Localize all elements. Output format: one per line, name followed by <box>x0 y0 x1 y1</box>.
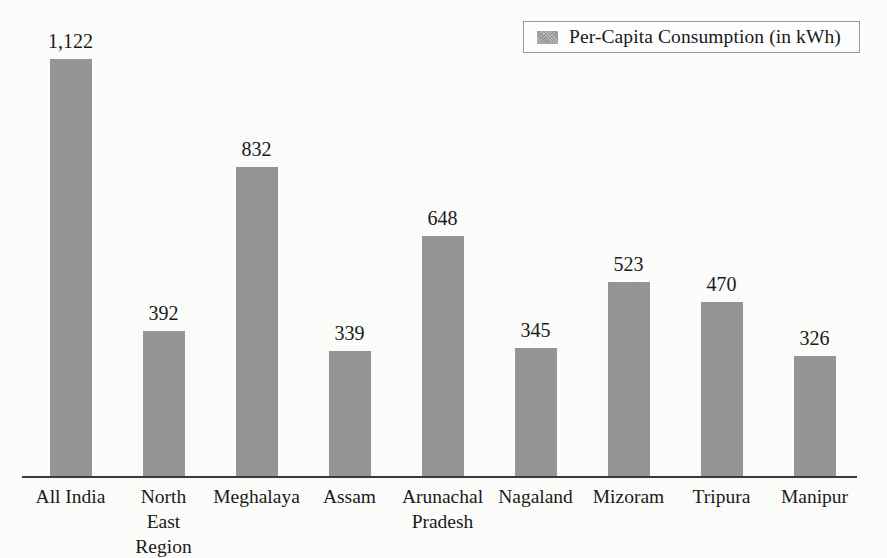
x-axis-category-label: Nagaland <box>489 484 582 509</box>
plot-area: 1,122All India392NorthEast Region832Megh… <box>0 0 887 558</box>
bar-group: 832Meghalaya <box>210 0 303 558</box>
bar-chart-figure: Per-Capita Consumption (in kWh) 1,122All… <box>0 0 887 558</box>
bar-value-label: 339 <box>303 323 396 343</box>
x-axis-line <box>22 476 857 478</box>
bar-group: 523Mizoram <box>582 0 675 558</box>
bar-rect[interactable] <box>701 302 743 477</box>
bar-group: 345Nagaland <box>489 0 582 558</box>
bar-value-label: 470 <box>675 274 768 294</box>
legend-label: Per-Capita Consumption (in kWh) <box>569 27 841 47</box>
bar-value-label: 648 <box>396 208 489 228</box>
bar-rect[interactable] <box>608 282 650 477</box>
bar-rect[interactable] <box>515 348 557 477</box>
bar-value-label: 326 <box>768 328 861 348</box>
bar-group: 470Tripura <box>675 0 768 558</box>
x-axis-category-label: Manipur <box>768 484 861 509</box>
x-axis-category-label: Mizoram <box>582 484 675 509</box>
bar-rect[interactable] <box>329 351 371 477</box>
bar-value-label: 345 <box>489 320 582 340</box>
bar-value-label: 523 <box>582 254 675 274</box>
x-axis-category-label: Tripura <box>675 484 768 509</box>
bar-value-label: 392 <box>117 303 210 323</box>
bar-rect[interactable] <box>236 167 278 477</box>
bar-value-label: 1,122 <box>24 31 117 51</box>
x-axis-category-label: Assam <box>303 484 396 509</box>
bar-rect[interactable] <box>50 59 92 477</box>
x-axis-category-label: ArunachalPradesh <box>396 484 489 534</box>
bar-group: 392NorthEast Region <box>117 0 210 558</box>
x-axis-category-label: Meghalaya <box>210 484 303 509</box>
legend-swatch-icon <box>537 31 558 44</box>
bar-rect[interactable] <box>794 356 836 477</box>
bar-group: 339Assam <box>303 0 396 558</box>
x-axis-category-label: All India <box>24 484 117 509</box>
bar-group: 648ArunachalPradesh <box>396 0 489 558</box>
chart-legend: Per-Capita Consumption (in kWh) <box>523 21 860 53</box>
bar-group: 1,122All India <box>24 0 117 558</box>
bar-group: 326Manipur <box>768 0 861 558</box>
bar-value-label: 832 <box>210 139 303 159</box>
bar-rect[interactable] <box>143 331 185 477</box>
bars-layer: 1,122All India392NorthEast Region832Megh… <box>0 0 887 558</box>
bar-rect[interactable] <box>422 236 464 477</box>
x-axis-category-label: NorthEast Region <box>117 484 210 558</box>
